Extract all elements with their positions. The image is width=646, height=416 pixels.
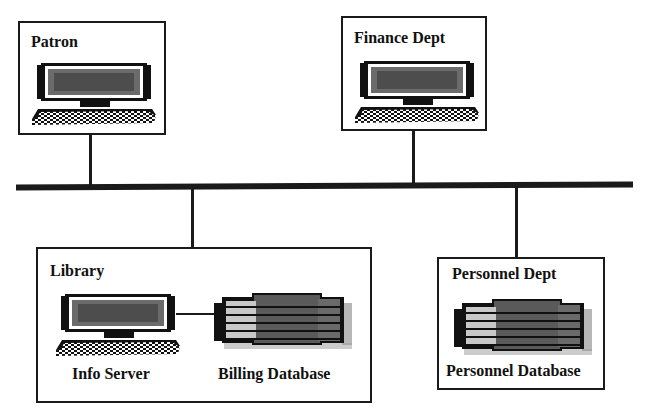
database-icon [454,299,594,355]
database-icon [214,293,354,349]
computer-icon [56,294,180,356]
server-db-link [176,313,218,315]
patron-label: Patron [31,33,78,51]
personnel-label: Personnel Dept [452,265,556,283]
library-label: Library [50,262,104,280]
finance-node: Finance Dept [341,16,487,131]
personnel-connector [515,186,518,258]
computer-icon [32,63,156,125]
finance-connector [412,130,415,185]
computer-icon [355,61,479,123]
library-connector [191,188,194,248]
patron-node: Patron [18,21,166,135]
billing-db-label: Billing Database [218,365,330,383]
patron-connector [89,134,92,186]
network-bus [16,181,633,190]
info-server-label: Info Server [72,365,150,383]
library-node: Library Info Server Billing Database [36,247,372,403]
finance-label: Finance Dept [354,29,445,47]
personnel-node: Personnel Dept Personnel Database [437,257,605,390]
personnel-db-label: Personnel Database [446,362,581,380]
